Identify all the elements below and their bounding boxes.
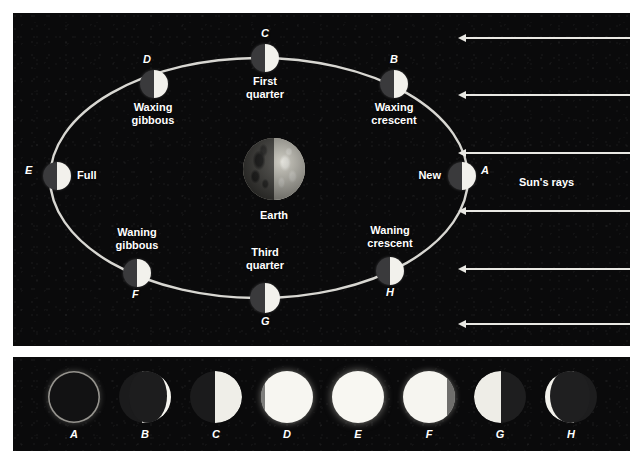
photo-phase-a — [48, 371, 100, 423]
moon-f-phase-label: Waning gibbous — [89, 226, 185, 251]
photo-f-letter: F — [403, 428, 455, 440]
moon-position-f — [123, 259, 151, 287]
moon-b-phase-label: Waxing crescent — [346, 101, 442, 126]
orbit-diagram-panel: Earth A New B Waxing crescent C First qu… — [13, 13, 630, 346]
photo-phase-b — [119, 371, 171, 423]
photo-g-letter: G — [474, 428, 526, 440]
photo-phase-g — [474, 371, 526, 423]
sun-ray-6 — [465, 323, 630, 325]
moon-position-a — [448, 162, 476, 190]
photo-f-shadow-region — [447, 371, 455, 423]
photo-a-letter: A — [48, 428, 100, 440]
photo-d-shadow-region — [261, 371, 265, 423]
photo-phase-e — [332, 371, 384, 423]
photo-e-disc — [332, 371, 384, 423]
moon-c-phase-label: First quarter — [217, 75, 313, 100]
moon-a-phase-label: New — [377, 169, 441, 182]
moon-photographs-panel: A B C D E — [13, 357, 630, 451]
moon-d-letter: D — [143, 53, 151, 65]
photo-b-disc — [119, 371, 171, 423]
moon-g-phase-label: Third quarter — [217, 246, 313, 271]
photo-c-disc — [190, 371, 242, 423]
photo-a-disc — [48, 371, 100, 423]
photo-h-disc — [545, 371, 597, 423]
moon-position-c — [251, 44, 279, 72]
photo-phase-d — [261, 371, 313, 423]
sun-ray-4 — [465, 210, 630, 212]
sun-ray-5 — [465, 268, 630, 270]
moon-position-g — [250, 283, 280, 313]
moon-e-phase-label: Full — [77, 169, 137, 182]
moon-b-letter: B — [390, 53, 398, 65]
moon-c-letter: C — [261, 27, 269, 39]
photo-phase-f — [403, 371, 455, 423]
earth-body — [243, 138, 305, 200]
moon-d-phase-label: Waxing gibbous — [105, 101, 201, 126]
moon-position-b — [380, 70, 408, 98]
moon-position-h — [376, 257, 404, 285]
photo-b-letter: B — [119, 428, 171, 440]
photo-h-shadow-mask — [550, 371, 590, 423]
moon-f-letter: F — [132, 288, 139, 300]
photo-f-disc — [403, 371, 455, 423]
moon-g-letter: G — [261, 315, 270, 327]
moon-a-letter: A — [481, 164, 489, 176]
arrow-head-icon — [458, 265, 466, 273]
sun-ray-2 — [465, 94, 630, 96]
arrow-head-icon — [458, 149, 466, 157]
photo-phase-h — [545, 371, 597, 423]
moon-e-letter: E — [25, 164, 32, 176]
photo-phase-c — [190, 371, 242, 423]
photo-h-letter: H — [545, 428, 597, 440]
moon-position-e — [43, 162, 71, 190]
photo-d-disc — [261, 371, 313, 423]
moon-position-d — [140, 70, 168, 98]
sun-ray-3 — [465, 152, 630, 154]
photo-g-lit-region — [474, 371, 501, 423]
earth-terminator-shading — [243, 138, 305, 200]
photo-b-shadow-mask — [129, 371, 167, 423]
moon-phases-figure: Earth A New B Waxing crescent C First qu… — [0, 0, 643, 463]
arrow-head-icon — [458, 34, 466, 42]
moon-h-phase-label: Waning crescent — [342, 224, 438, 249]
photo-d-letter: D — [261, 428, 313, 440]
photo-e-letter: E — [332, 428, 384, 440]
earth-label: Earth — [229, 209, 319, 222]
moon-h-letter: H — [386, 286, 394, 298]
photo-g-disc — [474, 371, 526, 423]
arrow-head-icon — [458, 91, 466, 99]
photo-c-letter: C — [190, 428, 242, 440]
sun-rays-label: Sun's rays — [519, 176, 574, 188]
arrow-head-icon — [458, 207, 466, 215]
sun-ray-1 — [465, 37, 630, 39]
photo-c-lit-region — [215, 371, 242, 423]
arrow-head-icon — [458, 320, 466, 328]
